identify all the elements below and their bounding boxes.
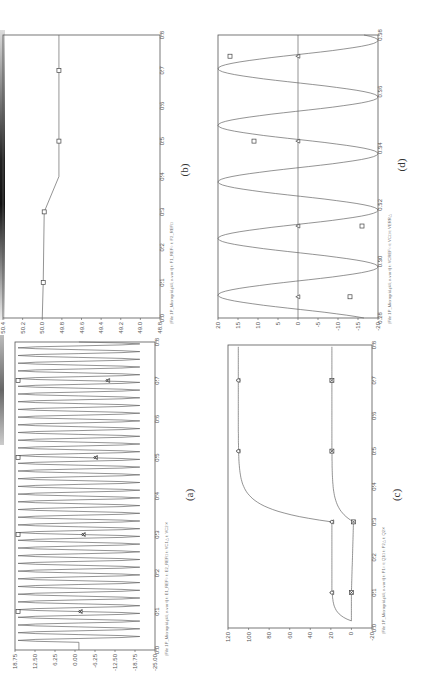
y-tick-label: 20 [328,631,334,638]
voltage-oscillation-curve [18,342,140,650]
y-tick-label: -25.00 [152,653,158,671]
y-tick-label: 12.50 [32,653,38,669]
y-tick-label: 0.00 [72,653,78,665]
plot-frame [3,35,160,318]
x-tick-label: 0.4 [154,491,160,500]
x-tick-label: 0.5 [159,136,165,145]
y-tick-label: 5 [275,321,281,325]
x-tick-label: 0.30 [377,255,383,267]
y-tick-label: 15 [235,321,241,328]
panel-caption: (a) [183,489,196,502]
legend: (File 1P_Microgrid.pl4; x-var t) t: VCRE… [387,213,392,324]
square-marker [16,379,20,383]
square-marker [16,456,20,460]
x-tick-label: 0.32 [377,198,383,210]
y-tick-label: 20 [215,321,221,328]
y-tick-label: 80 [266,631,272,638]
x-tick-label: 0.36 [377,85,383,97]
panel-caption: (d) [395,158,408,171]
x-tick-label: 0.6 [154,414,160,423]
y-tick-label: -5 [315,321,321,327]
square-marker [360,224,364,228]
square-marker [228,54,232,58]
y-tick-label: -12.50 [112,653,118,671]
y-tick-label: 50.2 [20,321,26,333]
x-tick-label: 0.5 [371,446,377,455]
x-tick-label: 0.5 [154,453,160,462]
x-tick-label: 0.7 [154,376,160,385]
square-marker [348,295,352,299]
y-tick-label: 10 [255,321,261,328]
x-tick-label: 0.1 [371,588,377,597]
legend: (File 1P_Microgrid.pl4; x-var t) t: P1○ … [381,527,386,634]
p-curve [238,347,351,621]
circle-marker [237,379,240,382]
x-tick-label: 0.8 [154,337,160,346]
plot-frame [228,345,372,628]
y-tick-label: 18.75 [12,653,18,669]
y-tick-label: -18.75 [132,653,138,671]
square-marker [57,68,61,72]
x-tick-label: 0.4 [371,482,377,491]
y-tick-label: 100 [246,631,252,642]
y-tick-label: 50.4 [0,321,6,333]
square-marker [252,139,256,143]
square-marker [16,610,20,614]
y-tick-label: 49.6 [79,321,85,333]
square-marker [41,281,45,285]
y-tick-label: 49.4 [98,321,104,333]
figure: 50.450.250.049.849.649.449.249.048.80.00… [0,0,428,673]
x-tick-label: 0.4 [159,172,165,181]
x-tick-label: 0.7 [159,66,165,75]
x-tick-label: 0.0 [371,623,377,632]
f2-ref-curve [42,35,59,318]
x-tick-label: 0.8 [159,30,165,39]
x-tick-label: 0.1 [159,278,165,287]
y-tick-label: 0 [348,631,354,635]
y-tick-label: -10 [335,321,341,330]
x-tick-label: 0.34 [377,142,383,154]
x-tick-label: 0.2 [154,568,160,577]
x-tick-label: 0.2 [371,552,377,561]
circle-marker [237,450,240,453]
panel-c: 120100806040200-200.00.10.20.30.40.50.60… [225,340,403,642]
square-marker [57,139,61,143]
q-curve [332,347,354,621]
y-tick-label: 49.0 [137,321,143,333]
square-marker [16,533,20,537]
x-tick-label: 0.28 [377,312,383,324]
x-tick-label: 0.1 [154,607,160,616]
y-tick-label: -6.25 [92,653,98,667]
panel-caption: (c) [390,489,403,502]
x-tick-label: 0.6 [159,101,165,110]
x-tick-label: 0.8 [371,340,377,349]
y-tick-label: 40 [307,631,313,638]
y-tick-label: 48.8 [157,321,163,333]
x-tick-label: 0.2 [159,242,165,251]
circle-marker [330,591,333,594]
x-tick-label: 0.38 [377,29,383,41]
y-tick-label: 50.0 [39,321,45,333]
panel-b: 50.450.250.049.849.649.449.249.048.80.00… [0,30,191,334]
x-tick-label: 0.3 [154,530,160,539]
x-tick-label: 0.3 [159,207,165,216]
y-tick-label: 49.8 [59,321,65,333]
y-tick-label: 120 [225,631,231,642]
y-tick-label: 49.2 [118,321,124,333]
y-tick-label: 0 [295,321,301,325]
y-tick-label: 60 [287,631,293,638]
legend: (File 1P_Microgrid.pl4; x-var t) t: F1_R… [169,222,174,324]
x-tick-label: 0.3 [371,517,377,526]
legend: (File 1P_Microgrid.pl4; x-var t) t: E1_R… [164,522,169,656]
x-tick-label: 0.7 [371,376,377,385]
panel-d: 20151050-5-10-15-200.280.300.320.340.360… [215,29,408,331]
y-tick-label: -15 [355,321,361,330]
panel-a: 18.7512.506.250.00-6.25-12.50-18.75-25.0… [12,337,196,671]
x-tick-label: 0.6 [371,411,377,420]
square-marker [42,210,46,214]
y-tick-label: 6.25 [52,653,58,665]
x-tick-label: 0.0 [154,645,160,654]
circle-marker [330,520,333,523]
panel-caption: (b) [178,163,191,176]
x-tick-label: 0.0 [159,313,165,322]
